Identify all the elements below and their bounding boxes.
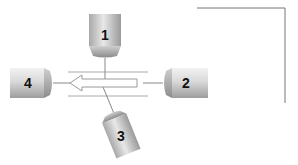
- detector-1: 1: [89, 14, 121, 58]
- detector-3: 3: [100, 108, 141, 159]
- detector-diagram: 1 4 2 3: [0, 0, 298, 165]
- detector-4: 4: [10, 68, 52, 98]
- detector-1-label: 1: [101, 27, 109, 43]
- detector-3-label: 3: [117, 128, 125, 144]
- detector-2: 2: [164, 68, 208, 98]
- detector-4-label: 4: [24, 75, 32, 91]
- frame-corner: [197, 8, 285, 103]
- detector-2-label: 2: [182, 75, 190, 91]
